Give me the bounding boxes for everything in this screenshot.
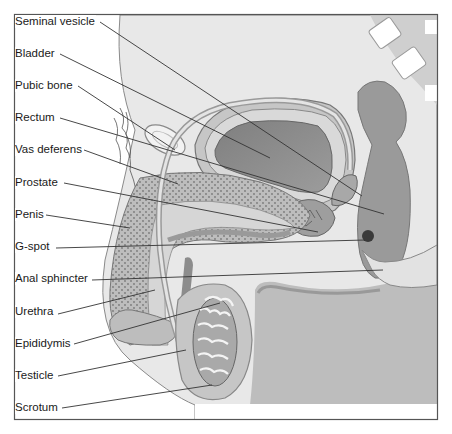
anatomy-illustration — [0, 0, 452, 434]
label-rectum: Rectum — [15, 111, 56, 124]
label-seminal-vesicle: Seminal vesicle — [15, 15, 96, 28]
label-anal-sphincter: Anal sphincter — [15, 272, 89, 285]
label-pubic-bone: Pubic bone — [15, 79, 74, 92]
anatomy-diagram: Seminal vesicle Bladder Pubic bone Rectu… — [0, 0, 452, 434]
label-scrotum: Scrotum — [15, 401, 59, 414]
label-epididymis: Epididymis — [15, 337, 72, 350]
body-section — [103, 15, 439, 419]
label-bladder: Bladder — [15, 47, 56, 60]
label-prostate: Prostate — [15, 176, 59, 189]
label-g-spot: G-spot — [15, 240, 51, 253]
label-urethra: Urethra — [15, 305, 54, 318]
label-vas-deferens: Vas deferens — [15, 143, 83, 156]
label-testicle: Testicle — [15, 369, 54, 382]
label-penis: Penis — [15, 208, 45, 221]
